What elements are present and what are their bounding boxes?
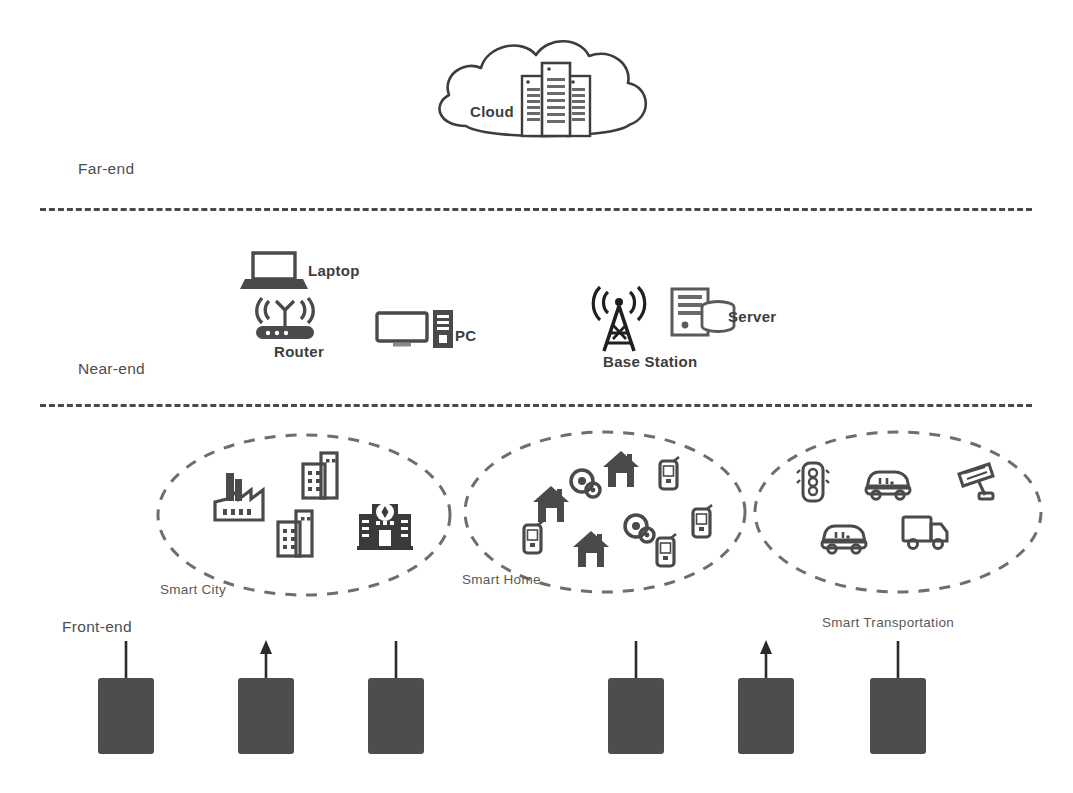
- base-station-icon: [593, 287, 645, 351]
- mobile-phone-icon: [657, 534, 676, 566]
- front-end-node[interactable]: [870, 678, 926, 754]
- laptop-label: Laptop: [308, 262, 360, 279]
- car-icon: [822, 526, 866, 553]
- mobile-phone-icon: [660, 457, 679, 489]
- government-building-icon: [357, 503, 413, 550]
- office-building-icon: [303, 453, 337, 498]
- truck-icon: [903, 517, 947, 549]
- pc-icon: [377, 310, 453, 348]
- webcam-icon: [571, 470, 600, 497]
- router-icon: [256, 298, 314, 339]
- server-icon: [672, 289, 734, 335]
- node-stem-arrow: [760, 640, 772, 678]
- front-end-node[interactable]: [738, 678, 794, 754]
- mobile-phone-icon: [524, 521, 543, 553]
- traffic-light-icon: [797, 463, 829, 501]
- mobile-phone-icon: [693, 505, 712, 537]
- zone-label-smart-city: Smart City: [160, 582, 226, 597]
- car-icon: [866, 472, 910, 499]
- divider-near-front: [40, 404, 1032, 407]
- laptop-icon: [240, 253, 308, 289]
- divider-far-near: [40, 208, 1032, 211]
- zone-label-smart-home: Smart Home: [462, 572, 541, 587]
- zone-ellipse-smart-home: [465, 432, 745, 592]
- pc-label: PC: [455, 327, 476, 344]
- front-end-node[interactable]: [608, 678, 664, 754]
- cctv-camera-icon: [959, 464, 993, 499]
- house-icon: [533, 486, 569, 522]
- node-stem-arrow: [260, 640, 272, 678]
- base-station-label: Base Station: [603, 353, 697, 370]
- node-stem-group: [126, 640, 898, 678]
- front-end-node[interactable]: [368, 678, 424, 754]
- office-building-icon: [278, 511, 312, 556]
- house-icon: [573, 531, 609, 567]
- cloud-label: Cloud: [470, 103, 514, 120]
- webcam-icon: [625, 515, 654, 542]
- diagram-canvas: Far-end Near-end Front-end Cloud Laptop …: [0, 0, 1073, 793]
- front-end-node[interactable]: [238, 678, 294, 754]
- tier-label-near-end: Near-end: [78, 360, 145, 378]
- zone-label-smart-transportation: Smart Transportation: [822, 615, 954, 630]
- house-icon: [603, 451, 639, 487]
- front-end-node[interactable]: [98, 678, 154, 754]
- factory-icon: [215, 473, 263, 520]
- router-label: Router: [274, 343, 324, 360]
- diagram-vector-layer: [0, 0, 1073, 793]
- server-label: Server: [728, 308, 777, 325]
- zone-ellipse-smart-transportation: [755, 432, 1041, 592]
- tier-label-front-end: Front-end: [62, 618, 132, 636]
- tier-label-far-end: Far-end: [78, 160, 134, 178]
